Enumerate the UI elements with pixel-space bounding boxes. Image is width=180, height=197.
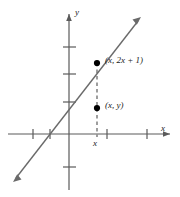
coordinate-plane-svg — [0, 0, 180, 197]
x-value-label: x — [93, 139, 97, 148]
point-label-upper: (x, 2x + 1) — [105, 56, 143, 65]
x-axis-label: x — [161, 124, 165, 133]
point-label-lower: (x, y) — [105, 101, 123, 110]
point-dot-on-line — [94, 60, 100, 66]
graph-figure: (x, 2x + 1) (x, y) x y x — [0, 0, 180, 197]
function-line-arrowhead-lower — [13, 174, 22, 182]
y-axis-arrowhead — [66, 14, 72, 21]
y-axis-label: y — [75, 8, 79, 17]
function-line-arrowhead-upper — [133, 17, 142, 25]
axes-group — [8, 14, 170, 190]
point-dot-below — [94, 105, 100, 111]
